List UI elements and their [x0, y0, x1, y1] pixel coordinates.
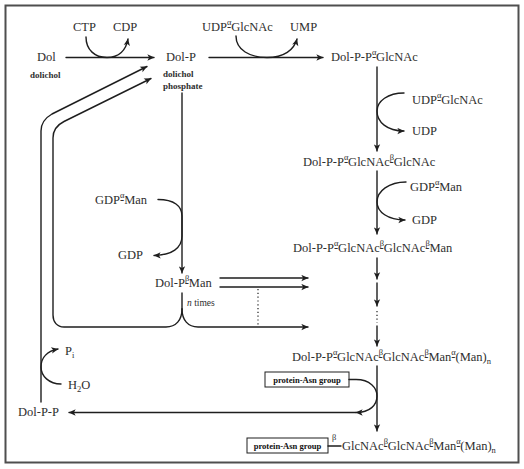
seg: Dol-P: [155, 276, 185, 290]
label-ctp: CTP: [73, 20, 96, 34]
caption-dolichol-phosphate-line2: phosphate: [163, 81, 203, 91]
compound-dol-p: Dol-P: [166, 50, 196, 64]
label-udp: UDP: [412, 124, 437, 138]
arrow-gdpman-to-gdp-right: [377, 182, 406, 220]
label-gdp-man-right: GDPα-Man: [410, 177, 463, 194]
gdp-part: GDP: [95, 193, 120, 207]
udp-part: UDP: [412, 93, 437, 107]
label-n-times: n times: [187, 298, 215, 308]
seg: Dol-P-P: [292, 350, 333, 364]
man-part: -Man: [435, 180, 463, 194]
label-gdp-right: GDP: [412, 213, 437, 227]
arrow-udpglcnac-to-udp: [377, 93, 404, 131]
seg: -Man: [185, 276, 213, 290]
compound-dol-p-man: Dol-Pβ-Man: [155, 273, 213, 290]
p-part: P: [65, 344, 72, 358]
arrow-h2o-to-pi: [41, 349, 61, 384]
seg: -Man: [429, 439, 457, 453]
seg: -(Man): [451, 350, 486, 364]
glcnac-part: -GlcNAc: [227, 20, 273, 34]
caption-dolichol: dolichol: [30, 70, 61, 80]
times-text: times: [192, 298, 215, 308]
seg: -GlcNAc: [380, 241, 426, 255]
seg: -GlcNAc: [383, 439, 429, 453]
label-udp-glcnac-right: UDPα-GlcNAc: [412, 90, 483, 107]
seg: Dol-P-P: [303, 155, 344, 169]
seg: GlcNAc: [342, 439, 384, 453]
seg: -GlcNAc: [334, 241, 380, 255]
seg: -Man: [424, 350, 452, 364]
n-sub: n: [492, 445, 497, 455]
arrow-udpglcnac-to-ump: [236, 36, 297, 58]
seg: -GlcNAc: [372, 50, 418, 64]
arrow-recycle-dolp-outer: [41, 67, 147, 403]
product-protein-asn-label: protein-Asn group: [254, 441, 322, 451]
h-part: H: [68, 378, 77, 392]
label-ump: UMP: [290, 20, 317, 34]
seg: -Man: [425, 241, 453, 255]
gdp-part: GDP: [410, 180, 435, 194]
dolichol-pathway-diagram: CTP CDP Dol dolichol Dol-P dolichol phos…: [0, 0, 524, 469]
compound-dol: Dol: [37, 50, 56, 64]
seg: -GlcNAc: [333, 350, 379, 364]
udp-part: UDP: [202, 20, 227, 34]
n-sub: n: [487, 356, 492, 366]
i-sub: i: [72, 350, 75, 360]
arrow-ctp-to-cdp: [86, 37, 128, 58]
seg: -GlcNAc: [390, 155, 436, 169]
product-chain: GlcNAcβ-GlcNAcβ-Manα-(Man)n: [342, 436, 497, 455]
intermediate-3: Dol-P-Pα-GlcNAcβ-GlcNAcβ-Man: [293, 238, 453, 255]
figure-frame: [6, 6, 519, 463]
seg: -GlcNAc: [379, 350, 425, 364]
product-bond-beta: β: [332, 432, 336, 442]
seg: -GlcNAc: [344, 155, 390, 169]
arrow-gdpman-to-gdp-left: [154, 200, 182, 256]
label-gdp-man-left: GDPα-Man: [95, 190, 148, 207]
intermediate-4: Dol-P-Pα-GlcNAcβ-GlcNAcβ-Manα-(Man)n: [292, 347, 492, 366]
man-part: -Man: [120, 193, 148, 207]
caption-dolichol-phosphate-line1: dolichol: [163, 69, 194, 79]
protein-asn-label: protein-Asn group: [273, 375, 341, 385]
seg: Dol-P-P: [293, 241, 334, 255]
arrow-protein-transfer: [349, 380, 377, 413]
intermediate-1: Dol-P-Pα-GlcNAc: [331, 47, 418, 64]
label-pi: Pi: [65, 344, 75, 360]
seg: -(Man): [456, 439, 491, 453]
label-h2o: H2O: [68, 378, 90, 394]
o-part: O: [81, 378, 90, 392]
seg: Dol-P-P: [331, 50, 372, 64]
label-gdp-left: GDP: [118, 248, 143, 262]
label-udp-glcnac-top: UDPα-GlcNAc: [202, 17, 273, 34]
glcnac-part: -GlcNAc: [437, 93, 483, 107]
label-cdp: CDP: [113, 20, 137, 34]
intermediate-2: Dol-P-Pα-GlcNAcβ-GlcNAc: [303, 152, 436, 169]
arrow-mannose-transfer-n: [182, 309, 308, 327]
compound-dol-p-p: Dol-P-P: [18, 405, 59, 419]
